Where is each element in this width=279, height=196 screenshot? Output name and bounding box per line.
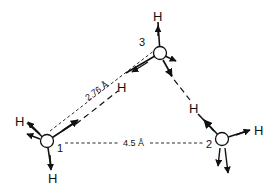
arrow-o1-bridge (62, 120, 78, 131)
arrow-o3-left (132, 62, 148, 72)
hydrogen-label-1-down: H (48, 171, 57, 186)
arrow-o1-down (50, 155, 51, 170)
arrow-o2-upleft (204, 120, 214, 131)
hydrogen-label-2-up: H (189, 101, 198, 116)
oxygen-number-3: 3 (139, 36, 145, 48)
oxygen-atom-3 (154, 47, 167, 60)
hydrogen-label-3-bridge: H (117, 80, 126, 95)
oxygen-atom-1 (41, 135, 54, 148)
water-trimer-diagram: H H H H H H 1 2 3 2.76 Å 4.5 Å (0, 0, 279, 196)
hydrogen-label-3-top: H (153, 9, 162, 24)
oxygen-number-1: 1 (57, 142, 63, 154)
arrow-o3-down (163, 60, 172, 76)
arrow-o2-down2 (225, 148, 228, 173)
oxygen-atom-2 (216, 133, 229, 146)
diagram-canvas: H H H H H H 1 2 3 2.76 Å 4.5 Å (0, 0, 279, 196)
distance-label-1-3: 2.76 Å (83, 79, 110, 102)
hydrogen-label-1-left: H (15, 114, 24, 129)
arrow-o1-upleft (28, 122, 40, 134)
oxygen-number-2: 2 (206, 138, 212, 150)
arrow-o2-right (236, 130, 250, 135)
distance-label-1-2: 4.5 Å (123, 138, 144, 148)
arrow-o2-down1 (218, 148, 220, 166)
arrow-o3-right (165, 56, 176, 61)
hydrogen-label-2-right: H (254, 123, 263, 138)
arrow-o1-left (27, 134, 40, 139)
